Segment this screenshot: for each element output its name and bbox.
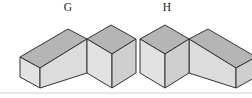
solid-g-low-block [20,29,87,88]
solid-h: H [140,1,252,88]
solid-g-tall-block [87,25,136,88]
isometric-solids-figure: G H [0,0,252,98]
solid-h-low-block [189,29,252,88]
solid-g-label: G [64,1,72,13]
solid-h-tall-block [140,25,189,88]
solid-g: G [20,1,136,88]
solid-h-label: H [163,1,171,13]
figure-canvas: G H [0,0,252,98]
